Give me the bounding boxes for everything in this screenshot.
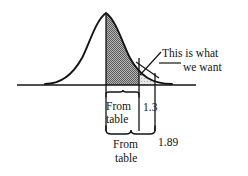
lower-brace — [106, 126, 155, 134]
upper-bracket-label-line-1: From — [106, 100, 131, 112]
annotation-text-line-1: This is what — [162, 47, 218, 59]
lower-bracket-label-line-1: From — [113, 138, 138, 150]
z-value-1-3-label: 1.3 — [143, 101, 157, 113]
figure-container: This is what we want From table 1.3 From… — [0, 0, 248, 176]
lower-bracket-label-line-2: table — [115, 152, 137, 164]
upper-bracket-label-line-2: table — [106, 113, 128, 125]
z-value-1-89-label: 1.89 — [158, 136, 178, 148]
annotation-text-line-2: we want — [183, 61, 222, 73]
upper-brace — [106, 90, 139, 97]
